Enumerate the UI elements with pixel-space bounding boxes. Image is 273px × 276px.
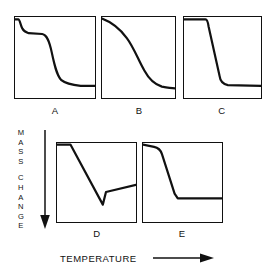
- panel-c: [183, 16, 262, 99]
- panel-b: [101, 16, 176, 99]
- panel-c-plot: [184, 17, 261, 98]
- panel-a: [14, 16, 96, 99]
- y-axis-letter: H: [18, 183, 24, 193]
- y-axis-letter: E: [18, 221, 23, 231]
- panel-label-e: E: [172, 228, 192, 239]
- curve-a: [15, 19, 95, 85]
- panel-b-plot: [102, 17, 175, 98]
- curve-b: [102, 19, 175, 89]
- y-axis-letter: S: [18, 147, 23, 157]
- arrow-right-icon: [153, 252, 215, 264]
- curve-d: [57, 145, 136, 205]
- panel-e: [142, 142, 223, 223]
- panel-label-b: B: [129, 105, 149, 116]
- tga-curve-types-figure: A B C D E M A S S C H A N G E: [0, 0, 273, 276]
- curve-c: [184, 19, 261, 85]
- y-axis-letter: G: [18, 212, 24, 222]
- panel-label-d: D: [87, 228, 107, 239]
- y-axis-letter: S: [18, 157, 23, 167]
- panel-e-plot: [143, 143, 222, 222]
- x-axis-label: TEMPERATURE: [60, 253, 137, 264]
- y-axis-letter: A: [18, 193, 23, 203]
- panel-d-plot: [57, 143, 136, 222]
- x-axis: TEMPERATURE: [60, 252, 215, 264]
- panel-d: [56, 142, 137, 223]
- panel-label-a: A: [45, 105, 65, 116]
- y-axis: M A S S C H A N G E: [14, 128, 54, 238]
- curve-e: [143, 145, 222, 199]
- panel-a-plot: [15, 17, 95, 98]
- panel-label-c: C: [212, 105, 232, 116]
- arrow-down-icon: [38, 130, 52, 230]
- y-axis-letter: N: [18, 202, 24, 212]
- y-axis-letter: M: [18, 128, 25, 138]
- y-axis-letter: C: [18, 173, 24, 183]
- y-axis-letter: A: [18, 138, 23, 148]
- y-axis-label: M A S S C H A N G E: [14, 128, 28, 231]
